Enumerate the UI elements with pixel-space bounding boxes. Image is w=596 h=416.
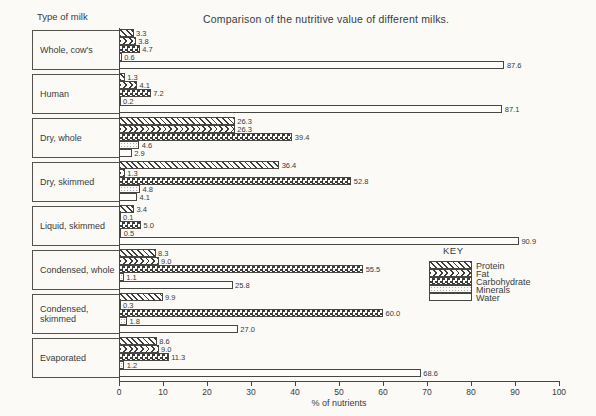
value-label: 90.9 xyxy=(521,238,536,246)
category-box: Dry, skimmed xyxy=(32,162,120,202)
value-label: 5.0 xyxy=(144,222,154,230)
category-label: Human xyxy=(40,89,69,99)
legend-label: Water xyxy=(476,294,500,303)
x-tick xyxy=(559,382,560,386)
legend-swatch-carbohydrate xyxy=(429,277,472,285)
value-label: 55.5 xyxy=(366,266,381,274)
y-axis-line xyxy=(119,28,120,381)
bar-water xyxy=(119,61,504,69)
x-tick xyxy=(119,382,120,386)
type-of-milk-header: Type of milk xyxy=(37,11,88,22)
legend-swatch-protein xyxy=(429,261,472,269)
legend-swatch-minerals xyxy=(429,285,472,293)
x-tick xyxy=(515,382,516,386)
x-tick-label: 100 xyxy=(552,387,566,397)
bar-minerals xyxy=(119,317,127,325)
bar-carbohydrate xyxy=(119,89,151,97)
x-tick-label: 0 xyxy=(117,387,122,397)
category-box: Whole, cow's xyxy=(32,30,120,70)
category-label: Condensed, whole xyxy=(40,265,115,275)
bar-fat xyxy=(119,257,159,265)
category-label: Whole, cow's xyxy=(40,45,93,55)
bar-minerals xyxy=(119,141,139,149)
chart-figure: Type of milk Comparison of the nutritive… xyxy=(0,0,596,416)
bar-carbohydrate xyxy=(119,45,140,53)
x-tick-label: 10 xyxy=(158,387,167,397)
bar-protein xyxy=(119,337,157,345)
value-label: 36.4 xyxy=(282,162,297,170)
bar-water xyxy=(119,105,502,113)
bar-protein xyxy=(119,205,134,213)
value-label: 4.7 xyxy=(142,46,152,54)
bar-carbohydrate xyxy=(119,133,292,141)
bar-minerals xyxy=(119,185,140,193)
bar-carbohydrate xyxy=(119,353,169,361)
x-tick xyxy=(471,382,472,386)
legend-swatch-fat xyxy=(429,269,472,277)
x-tick xyxy=(427,382,428,386)
bar-water xyxy=(119,193,137,201)
bar-carbohydrate xyxy=(119,177,351,185)
bar-protein xyxy=(119,293,163,301)
bar-water xyxy=(119,237,519,245)
bar-fat xyxy=(119,125,235,133)
bar-carbohydrate xyxy=(119,221,141,229)
bar-fat xyxy=(119,345,159,353)
value-label: 3.4 xyxy=(136,206,146,214)
x-tick-label: 80 xyxy=(466,387,475,397)
bar-water xyxy=(119,281,233,289)
x-tick xyxy=(207,382,208,386)
value-label: 39.4 xyxy=(295,134,310,142)
category-label: Evaporated xyxy=(40,353,86,363)
chart-title: Comparison of the nutritive value of dif… xyxy=(203,13,449,25)
bar-carbohydrate xyxy=(119,265,363,273)
category-label: Condensed, skimmed xyxy=(40,304,115,324)
value-label: 9.9 xyxy=(165,294,175,302)
x-tick xyxy=(251,382,252,386)
value-label: 2.9 xyxy=(134,150,144,158)
x-tick-label: 60 xyxy=(378,387,387,397)
x-tick-label: 50 xyxy=(334,387,343,397)
x-tick xyxy=(339,382,340,386)
value-label: 11.3 xyxy=(171,354,185,362)
category-label: Dry, skimmed xyxy=(40,177,94,187)
bar-fat xyxy=(119,81,137,89)
value-label: 25.8 xyxy=(235,282,250,290)
value-label: 87.1 xyxy=(505,106,520,114)
value-label: 27.0 xyxy=(240,326,255,334)
category-box: Dry, whole xyxy=(32,118,120,158)
bar-water xyxy=(119,149,132,157)
value-label: 7.2 xyxy=(153,90,163,98)
value-label: 4.1 xyxy=(140,194,150,202)
value-label: 60.0 xyxy=(386,310,401,318)
category-box: Human xyxy=(32,74,120,114)
x-tick-label: 30 xyxy=(246,387,255,397)
bar-protein xyxy=(119,161,279,169)
bar-carbohydrate xyxy=(119,309,383,317)
x-tick xyxy=(295,382,296,386)
bar-protein xyxy=(119,117,235,125)
x-tick-label: 40 xyxy=(290,387,299,397)
value-label: 68.6 xyxy=(423,370,438,378)
x-axis-label: % of nutrients xyxy=(311,398,366,408)
legend-key-title: KEY xyxy=(443,245,464,256)
category-box: Evaporated xyxy=(32,338,120,378)
bar-water xyxy=(119,369,421,377)
x-tick xyxy=(383,382,384,386)
x-tick-label: 20 xyxy=(202,387,211,397)
value-label: 87.6 xyxy=(507,62,522,70)
value-label: 52.8 xyxy=(354,178,369,186)
x-tick-label: 70 xyxy=(422,387,431,397)
category-label: Liquid, skimmed xyxy=(40,221,105,231)
x-tick-label: 90 xyxy=(510,387,519,397)
legend-swatch-water xyxy=(429,293,472,301)
category-box: Condensed, skimmed xyxy=(32,294,120,334)
bar-protein xyxy=(119,29,134,37)
category-box: Liquid, skimmed xyxy=(32,206,120,246)
bar-water xyxy=(119,325,238,333)
category-box: Condensed, whole xyxy=(32,250,120,290)
x-tick xyxy=(163,382,164,386)
bar-fat xyxy=(119,37,136,45)
bar-protein xyxy=(119,249,156,257)
category-label: Dry, whole xyxy=(40,133,82,143)
